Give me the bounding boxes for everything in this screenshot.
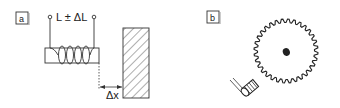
distance-label: Δx (106, 89, 119, 101)
coil-windings (50, 46, 94, 64)
terminal-right (92, 15, 96, 19)
inductance-formula: L ± ΔL (56, 11, 87, 23)
coil-core (45, 48, 99, 63)
metal-target (123, 28, 149, 98)
diagram: a L ± ΔL Δx b (0, 0, 340, 108)
panel-tag-b: b (210, 13, 215, 23)
panel-b: b (207, 11, 318, 97)
panel-a: a L ± ΔL Δx (16, 11, 149, 101)
panel-tag-a: a (19, 14, 24, 24)
terminal-left (48, 15, 52, 19)
gear (254, 19, 318, 83)
diagram-svg: a L ± ΔL Δx b (0, 0, 340, 108)
sensor (230, 78, 259, 97)
